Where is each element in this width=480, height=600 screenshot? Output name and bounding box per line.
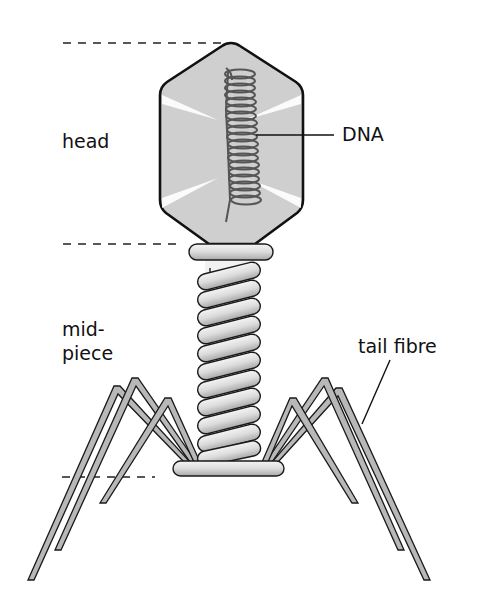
label-dna: DNA: [342, 123, 384, 145]
phage-diagram: head DNA mid- piece tail fibre: [0, 0, 480, 600]
label-head: head: [62, 130, 109, 152]
label-midpiece-line1: mid-: [62, 318, 105, 340]
tail-fibres-right: [262, 378, 430, 580]
base-plate: [173, 461, 284, 476]
label-tail-fibre: tail fibre: [358, 335, 437, 357]
tail-fibres-left: [28, 378, 200, 580]
tail-sheath: [196, 260, 262, 467]
tail-fibre-leader-line: [362, 360, 390, 424]
collar: [189, 244, 273, 260]
label-midpiece-line2: piece: [62, 342, 113, 364]
phage-drawing: [0, 0, 480, 600]
